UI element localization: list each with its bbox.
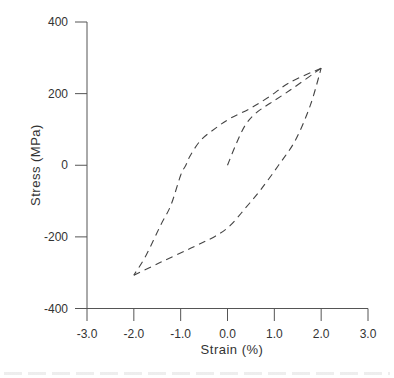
x-tick-label: 3.0 — [360, 327, 377, 341]
y-tick-label: 400 — [48, 15, 68, 29]
caption-fragment — [4, 372, 390, 375]
x-tick-label: -1.0 — [170, 327, 191, 341]
curve-reloading — [134, 68, 321, 275]
y-tick-label: 0 — [61, 158, 68, 172]
x-tick-label: 0.0 — [219, 327, 236, 341]
x-axis-title: Strain (%) — [201, 342, 264, 357]
x-tick-label: 2.0 — [313, 327, 330, 341]
x-tick-label: -2.0 — [123, 327, 144, 341]
y-tick-label: -200 — [44, 230, 68, 244]
curve-initial-loading — [228, 68, 322, 165]
y-axis-title: Stress (MPa) — [28, 124, 43, 206]
y-ticks: 4002000-200-400 — [44, 15, 87, 316]
x-ticks: -3.0-2.0-1.00.01.02.03.0 — [77, 309, 377, 342]
x-tick-label: 1.0 — [266, 327, 283, 341]
curve-reverse-loading — [134, 68, 321, 275]
y-tick-label: 200 — [48, 87, 68, 101]
x-tick-label: -3.0 — [77, 327, 98, 341]
stress-strain-chart: 4002000-200-400 -3.0-2.0-1.00.01.02.03.0… — [0, 0, 394, 378]
y-tick-label: -400 — [44, 302, 68, 316]
hysteresis-curves — [134, 68, 321, 275]
